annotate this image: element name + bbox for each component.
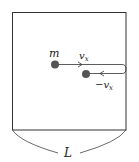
brace-right (80, 130, 126, 153)
particle-final (82, 70, 90, 78)
trajectory-line (55, 65, 126, 74)
velocity-in-label: vx (79, 50, 89, 63)
velocity-out-label: −vx (95, 79, 113, 92)
mass-label: m (49, 47, 59, 60)
box (13, 13, 127, 131)
length-label: L (63, 146, 72, 160)
diagram-canvas: L m vx −vx (0, 0, 139, 162)
particle-initial (51, 61, 59, 69)
brace-left (13, 130, 59, 153)
